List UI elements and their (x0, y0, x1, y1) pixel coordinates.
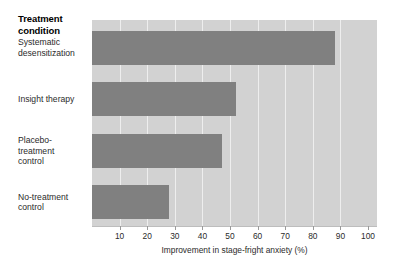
x-tick-label-30: 30 (160, 231, 190, 241)
chart-title-line-2: condition (18, 25, 96, 37)
category-label-line: Systematic (18, 37, 94, 48)
x-tick-label-90: 90 (325, 231, 355, 241)
x-tick-label-70: 70 (270, 231, 300, 241)
plot-area-right-margin (368, 20, 377, 226)
category-label-systematic-desensitization: Systematic desensitization (18, 37, 94, 58)
category-label-placebo-treatment-control: Placebo- treatment control (18, 135, 94, 167)
x-axis-line (92, 226, 377, 227)
category-label-no-treatment-control: No-treatment control (18, 192, 94, 213)
bar-chart-figure: Treatment condition Systematic desensiti… (0, 0, 393, 276)
tick-mark-50 (230, 226, 231, 230)
category-label-line: Placebo- (18, 135, 94, 146)
tick-mark-60 (258, 226, 259, 230)
category-label-column: Treatment condition Systematic desensiti… (0, 0, 92, 276)
plot-area (92, 20, 368, 226)
x-tick-label-60: 60 (243, 231, 273, 241)
tick-mark-100 (368, 226, 369, 230)
gridline-90 (340, 20, 341, 226)
bar-2 (92, 134, 222, 168)
category-label-line: Insight therapy (18, 94, 94, 105)
tick-mark-80 (313, 226, 314, 230)
tick-mark-30 (175, 226, 176, 230)
x-tick-label-20: 20 (132, 231, 162, 241)
tick-mark-20 (147, 226, 148, 230)
chart-title: Treatment condition (18, 13, 96, 36)
bar-1 (92, 82, 236, 116)
category-label-line: control (18, 156, 94, 167)
x-tick-label-40: 40 (187, 231, 217, 241)
tick-mark-10 (120, 226, 121, 230)
category-label-line: desensitization (18, 48, 94, 59)
x-tick-label-100: 100 (353, 231, 383, 241)
x-tick-label-80: 80 (298, 231, 328, 241)
category-label-line: No-treatment (18, 192, 94, 203)
bar-0 (92, 31, 335, 65)
x-tick-label-10: 10 (105, 231, 135, 241)
category-label-insight-therapy: Insight therapy (18, 94, 94, 105)
tick-mark-40 (202, 226, 203, 230)
tick-mark-70 (285, 226, 286, 230)
chart-title-line-1: Treatment (18, 13, 96, 25)
bar-3 (92, 185, 169, 219)
x-tick-label-50: 50 (215, 231, 245, 241)
x-axis-title: Improvement in stage-fright anxiety (%) (92, 245, 377, 255)
tick-mark-90 (340, 226, 341, 230)
category-label-line: treatment (18, 146, 94, 157)
category-label-line: control (18, 202, 94, 213)
